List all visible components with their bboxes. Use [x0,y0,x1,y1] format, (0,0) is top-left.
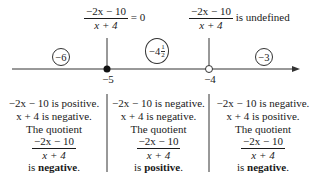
arrow-icon [292,66,300,72]
result-suffix: . [286,161,289,173]
result-suffix: . [180,161,183,173]
open-point-icon [206,66,213,73]
result-prefix: is [237,161,244,173]
critical-point-label: −5 [98,73,118,85]
test-point: −3 [255,48,273,66]
result-prefix: is [28,161,35,173]
result-line: is positive. [108,161,209,174]
result-sign: positive [144,161,180,173]
denominator: x + 4 [251,149,274,161]
denominator: 2 [161,52,165,59]
numerator: −2x − 10 [137,136,181,149]
denominator: x + 4 [147,149,170,161]
numerator-sign: −2x − 10 is negative. [210,97,316,110]
quotient-fraction: −2x − 10 x + 4 [241,136,285,161]
filled-point-icon [104,66,111,73]
numerator: −2x − 10 [32,136,76,149]
result-line: is negative. [210,161,316,174]
region-left: −2x − 10 is positive. x + 4 is negative.… [2,97,106,174]
result-line: is negative. [2,161,106,174]
result-prefix: is [134,161,141,173]
test-point-value: −6 [55,52,66,63]
test-point-value: −3 [258,52,269,63]
quotient-fraction: −2x − 10 x + 4 [137,136,181,161]
quotient-fraction: −2x − 10 x + 4 [32,136,76,161]
numerator-sign: −2x − 10 is positive. [2,97,106,110]
test-point: −6 [52,48,70,66]
region-right: −2x − 10 is negative. x + 4 is positive.… [210,97,316,174]
mixed-number: −4 1 2 [149,44,165,59]
result-sign: negative [38,161,77,173]
result-suffix: . [77,161,80,173]
denominator-sign: x + 4 is negative. [108,110,209,123]
test-point: −4 1 2 [145,38,169,64]
fraction-part: 1 2 [161,44,165,59]
denominator-sign: x + 4 is positive. [210,110,316,123]
whole-part: −4 [149,46,160,57]
numerator: −2x − 10 [241,136,285,149]
result-sign: negative [247,161,286,173]
denominator-sign: x + 4 is negative. [2,110,106,123]
numerator-sign: −2x − 10 is negative. [108,97,209,110]
denominator: x + 4 [42,149,65,161]
region-middle: −2x − 10 is negative. x + 4 is negative.… [108,97,209,174]
critical-point-label: −4 [200,73,220,85]
